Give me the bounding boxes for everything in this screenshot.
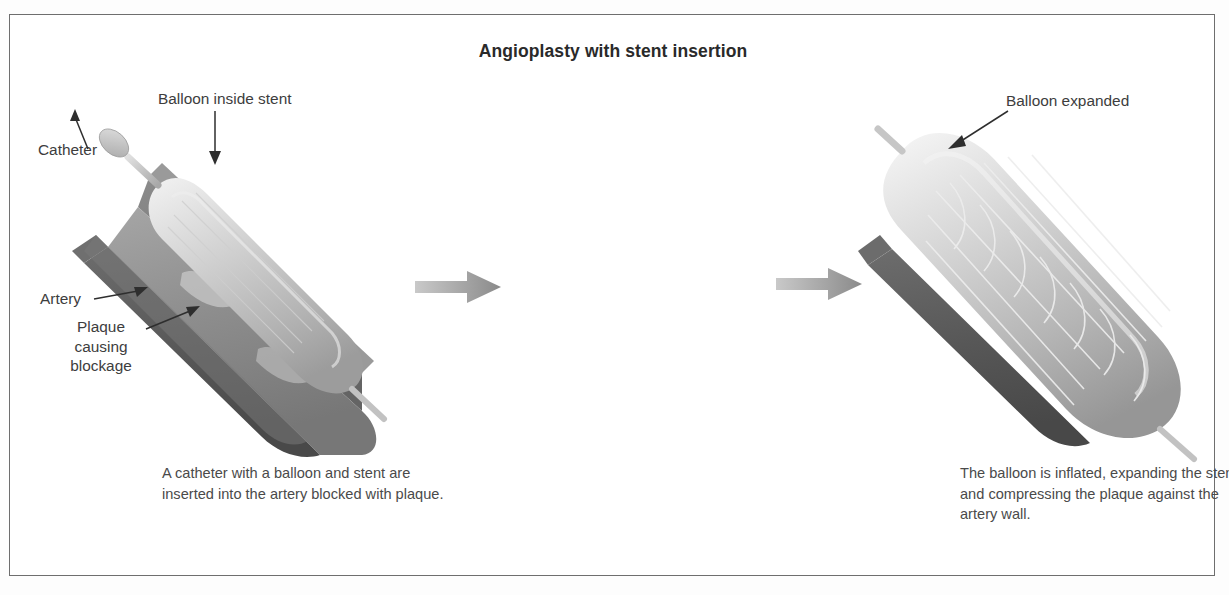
label-plaque-causing-blockage: Plaque causing blockage [58,317,144,376]
angioplasty-figure: Angioplasty with stent insertion [0,0,1229,595]
figure-frame: Angioplasty with stent insertion [9,14,1215,576]
panel-stage-3: Stent The catheter and balloon are remov… [814,15,1216,577]
panel-stage-2: Balloon expanded The balloon is inflated… [412,15,814,577]
leader-plaque [142,303,204,337]
label-artery: Artery [40,289,81,308]
label-balloon-inside-stent: Balloon inside stent [158,89,291,108]
leader-catheter [66,107,106,153]
leader-balloon-inside-stent [206,111,228,167]
panel-stage-1: Catheter Balloon inside stent Artery Pla… [10,15,412,577]
